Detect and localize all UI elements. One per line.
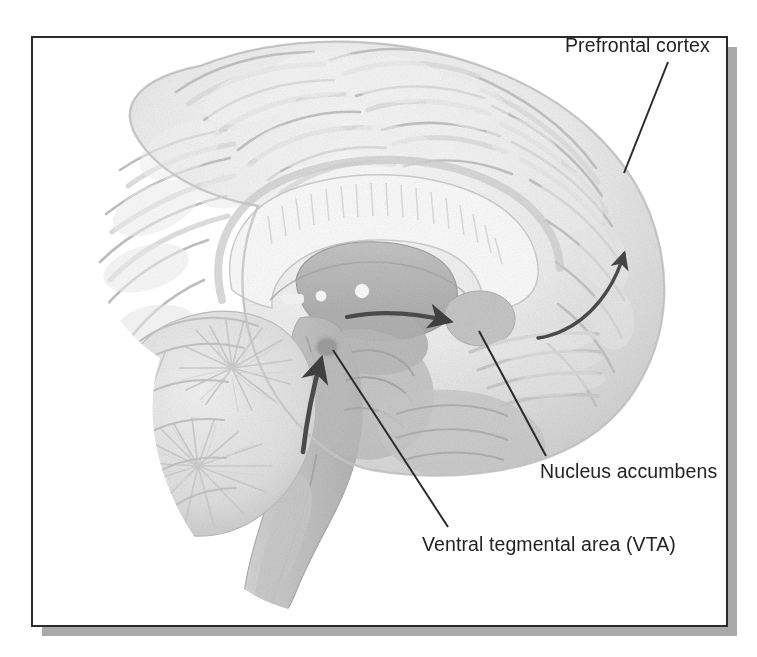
landmark-dot-1	[316, 291, 327, 302]
label-nucleus-accumbens: Nucleus accumbens	[540, 460, 717, 482]
figure-canvas: Prefrontal cortex Nucleus accumbens Vent…	[0, 0, 757, 657]
brain-pathway-figure: Prefrontal cortex Nucleus accumbens Vent…	[0, 0, 757, 657]
accumbens-region	[445, 291, 516, 346]
landmark-dot-2	[355, 284, 369, 298]
landmark-bar	[282, 294, 304, 304]
label-ventral-tegmental-area: Ventral tegmental area (VTA)	[422, 533, 676, 555]
label-prefrontal-cortex: Prefrontal cortex	[565, 34, 710, 56]
vta-core	[319, 340, 336, 355]
